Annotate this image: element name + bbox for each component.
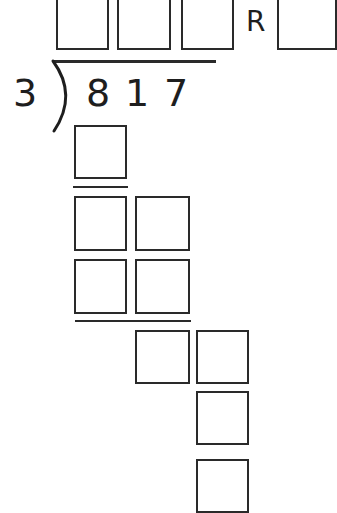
work-box-r5-c1[interactable]: [196, 391, 249, 445]
work-box-r2-c1[interactable]: [74, 196, 127, 251]
work-box-r3-c1[interactable]: [74, 259, 127, 314]
work-box-r4-c1[interactable]: [135, 330, 190, 384]
work-box-r6-c1[interactable]: [196, 459, 249, 513]
dividend-digit-ones: 7: [164, 74, 188, 112]
work-box-r2-c2[interactable]: [135, 196, 190, 251]
divisor: 3: [13, 74, 37, 112]
subtraction-line-1: [73, 186, 128, 188]
work-box-r1-c1[interactable]: [74, 125, 127, 179]
dividend-digit-hundreds: 8: [86, 74, 110, 112]
work-box-r3-c2[interactable]: [135, 259, 190, 314]
subtraction-line-2: [75, 320, 191, 322]
work-box-r4-c2[interactable]: [196, 330, 249, 384]
dividend-digit-tens: 1: [125, 74, 149, 112]
